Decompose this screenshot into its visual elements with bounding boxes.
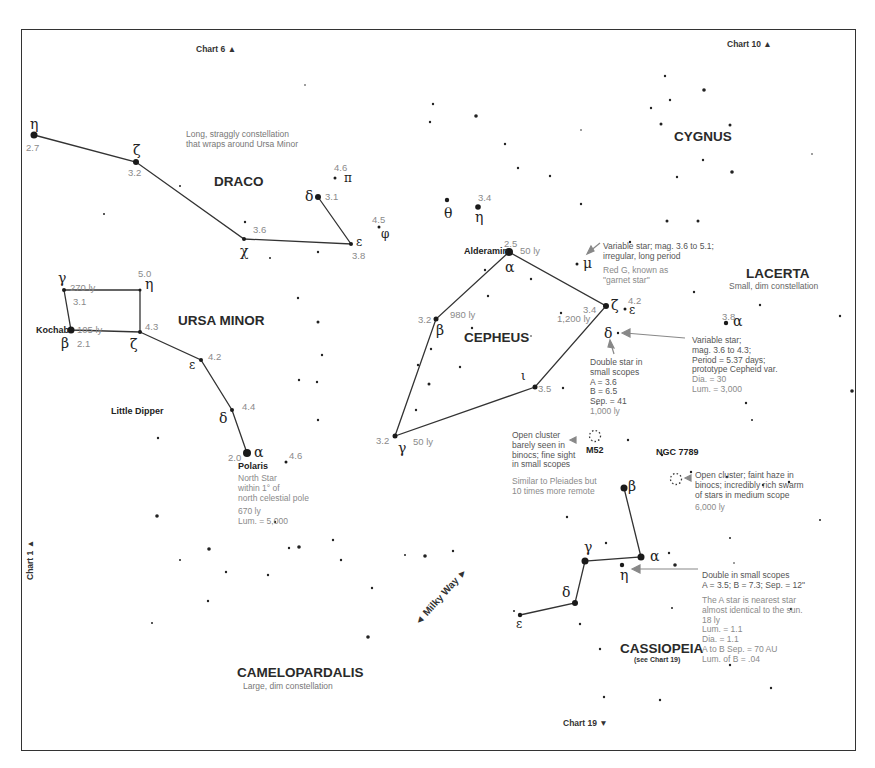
cep-beta: β	[436, 322, 444, 338]
chart-ref-1[interactable]: Chart 1 ▲	[26, 540, 36, 580]
umi-zeta-mag: 4.3	[145, 322, 158, 333]
delta-double-dist: 1,000 ly	[590, 407, 620, 417]
cas-delta: δ	[562, 584, 570, 600]
draco-zeta-mag: 3.2	[128, 168, 141, 179]
cep-gamma: γ	[398, 440, 406, 456]
draco-eta2-mag: 3.4	[478, 193, 491, 204]
umi-beta-dist: 105 ly	[77, 325, 102, 336]
constellation-cygnus: CYGNUS	[674, 129, 732, 145]
umi-epsilon: ε	[189, 359, 195, 373]
mu-note-2: Red G, known as "garnet star"	[603, 266, 668, 286]
cassiopeia-see[interactable]: (see Chart 19)	[634, 656, 680, 664]
eta-note: Double in small scopes A = 3.5; B = 7.3;…	[702, 571, 805, 591]
polaris-dist: 670 ly Lum. = 5,000	[238, 507, 288, 527]
lac-alpha-mag: 3.8	[722, 312, 735, 323]
draco-delta: δ	[305, 188, 313, 204]
draco-chi-mag: 3.6	[253, 225, 266, 236]
umi-beta-mag: 2.1	[77, 339, 90, 350]
cep-iota-mag: 3.5	[538, 384, 551, 395]
draco-chi: χ	[240, 243, 248, 259]
cas-eta: η	[620, 567, 628, 583]
constellation-cassiopeia: CASSIOPEIA	[620, 641, 703, 657]
chart-ref-10[interactable]: Chart 10 ▲	[727, 40, 772, 50]
constellation-lines	[34, 135, 641, 615]
delta-note: Variable star; mag. 3.6 to 4.3; Period =…	[692, 336, 778, 375]
cep-epsilon-mag: 4.2	[628, 296, 641, 307]
cep-alpha: α	[505, 259, 514, 275]
m52-label: M52	[586, 445, 604, 455]
cep-alpha-dist: 50 ly	[520, 246, 540, 257]
draco-eta-mag: 2.7	[26, 143, 39, 154]
umi-gamma: γ	[58, 270, 66, 286]
draco-eta: η	[30, 116, 38, 132]
draco-phi: φ	[381, 228, 389, 242]
constellation-lacerta: LACERTA	[746, 266, 810, 282]
umi-alpha: α	[254, 444, 263, 460]
polaris-label: Polaris	[238, 461, 268, 471]
constellation-cepheus: CEPHEUS	[464, 330, 529, 346]
m52-note-2: Similar to Pleiades but 10 times more re…	[512, 477, 597, 497]
cas-epsilon: ε	[516, 618, 522, 632]
umi-eta-mag: 5.0	[138, 269, 151, 280]
cep-zeta: ζ	[611, 297, 619, 313]
umi-beta: β	[61, 335, 69, 351]
umi-epsilon-mag: 4.2	[208, 352, 221, 363]
delta-note-2: Dia. = 30 Lum. = 3,000	[692, 375, 742, 395]
ngc7789-dist: 6,000 ly	[695, 503, 725, 513]
m52-cluster-icon	[590, 431, 601, 442]
m52-note: Open cluster barely seen in binocs; fine…	[512, 431, 575, 470]
cep-mu: μ	[583, 255, 592, 271]
draco-pi-mag: 4.6	[334, 163, 347, 174]
little-dipper-label: Little Dipper	[111, 406, 164, 416]
umi-gamma-mag: 3.1	[73, 297, 86, 308]
ngc7789-cluster-icon	[671, 474, 682, 485]
draco-note: Long, straggly constellation that wraps …	[186, 130, 298, 150]
cep-delta: δ	[604, 325, 612, 341]
kochab-label: Kochab	[36, 325, 69, 335]
draco-eta2: η	[475, 209, 483, 225]
ngc7789-label: NGC 7789	[656, 447, 699, 457]
lacerta-note: Small, dim constellation	[729, 282, 818, 292]
cep-beta-dist: 980 ly	[450, 310, 475, 321]
chart-ref-19[interactable]: Chart 19 ▼	[563, 719, 608, 729]
camelopardalis-note: Large, dim constellation	[243, 682, 333, 692]
cas-beta: β	[628, 478, 636, 494]
draco-delta-mag: 3.1	[325, 192, 338, 203]
umi-delta-mag: 4.4	[242, 402, 255, 413]
mu-note: Variable star; mag. 3.6 to 5.1; irregula…	[603, 242, 714, 262]
cas-gamma: γ	[584, 539, 592, 555]
draco-epsilon-mag: 3.8	[352, 251, 365, 262]
polaris-note: North Star within 1° of north celestial …	[238, 474, 309, 503]
umi-gamma-dist: 270 ly	[70, 283, 95, 294]
cep-iota: ι	[521, 370, 526, 384]
umi-zeta: ζ	[130, 336, 138, 352]
cluster-symbols	[590, 431, 682, 485]
cep-gamma-dist: 50 ly	[413, 437, 433, 448]
delta-double-note: Double star in small scopes A = 3.6 B = …	[590, 358, 642, 407]
draco-theta: θ	[444, 205, 452, 221]
alderamin-label: Alderamin	[464, 246, 508, 256]
cep-gamma-mag: 3.2	[376, 436, 389, 447]
constellation-draco: DRACO	[214, 174, 264, 190]
draco-phi-mag: 4.5	[372, 215, 385, 226]
cep-beta-mag: 3.2	[418, 315, 431, 326]
chart-ref-6[interactable]: Chart 6 ▲	[196, 45, 236, 55]
draco-zeta: ζ	[133, 142, 141, 158]
constellation-ursa-minor: URSA MINOR	[178, 313, 265, 329]
ngc7789-note: Open cluster; faint haze in binocs; incr…	[695, 471, 804, 500]
draco-epsilon: ε	[356, 236, 362, 250]
constellation-camelopardalis: CAMELOPARDALIS	[237, 665, 364, 681]
nearby-star-mag: 4.6	[289, 451, 302, 462]
umi-delta: δ	[219, 410, 227, 426]
cas-alpha: α	[650, 548, 659, 564]
cep-zeta-dist: 1,200 ly	[557, 314, 590, 325]
draco-pi: π	[344, 172, 352, 186]
eta-note-2: The A star is nearest star almost identi…	[702, 596, 803, 664]
